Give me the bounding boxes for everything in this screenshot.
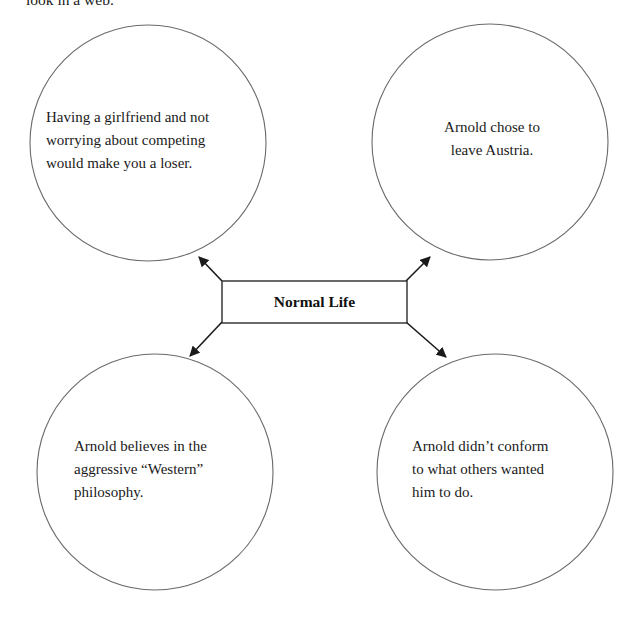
connector-center-to-top-left (199, 257, 222, 281)
center-node-label: Normal Life (222, 281, 407, 323)
connector-center-to-bottom-left (190, 322, 222, 356)
node-line: to what others wanted (412, 458, 598, 481)
node-label-bottom-left: Arnold believes in the aggressive “Weste… (74, 435, 270, 504)
node-line: Arnold didn’t conform (412, 435, 598, 458)
node-line: worrying about competing (46, 129, 260, 152)
node-label-top-right: Arnold chose to leave Austria. (406, 116, 578, 162)
node-line: philosophy. (74, 481, 270, 504)
connector-center-to-bottom-right (406, 322, 446, 357)
diagram-page: look in a web. Having a girlfriend and n… (0, 0, 629, 617)
node-line: would make you a loser. (46, 152, 260, 175)
node-line: Arnold chose to (406, 116, 578, 139)
node-line: aggressive “Western” (74, 458, 270, 481)
node-line: leave Austria. (406, 139, 578, 162)
node-label-bottom-right: Arnold didn’t conform to what others wan… (412, 435, 598, 504)
node-label-top-left: Having a girlfriend and not worrying abo… (46, 106, 260, 175)
node-line: Arnold believes in the (74, 435, 270, 458)
node-line: him to do. (412, 481, 598, 504)
node-line: Having a girlfriend and not (46, 106, 260, 129)
connector-center-to-top-right (406, 257, 430, 281)
